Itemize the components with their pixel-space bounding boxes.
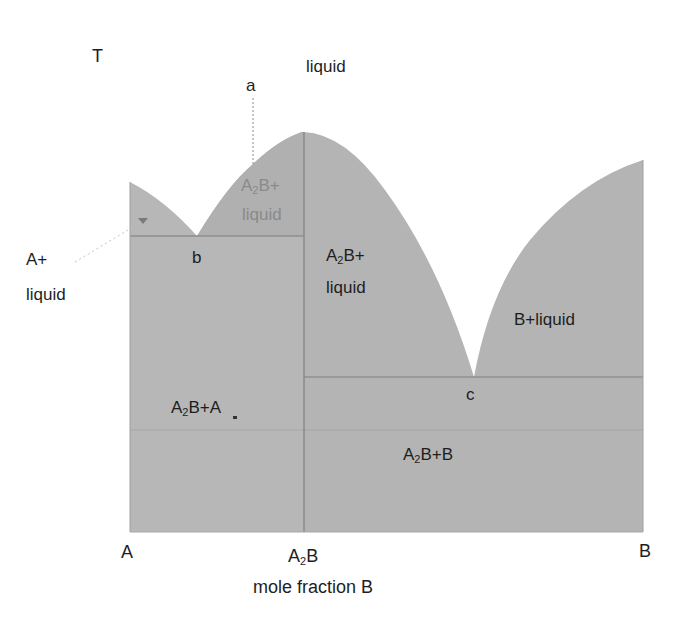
point-label-c: c	[466, 385, 475, 405]
region-label-a2b-liquid-left: A2B+	[241, 176, 280, 196]
region-label-liquid: liquid	[306, 57, 346, 77]
formula-base: A	[403, 445, 414, 464]
marker-dot-icon	[233, 416, 237, 419]
region-right-fill	[304, 132, 643, 532]
leader-line-a-liquid	[75, 224, 138, 262]
region-label-a2b-liquid-left-line2: liquid	[242, 205, 282, 225]
region-label-a-plus-liquid-line2: liquid	[26, 285, 66, 305]
phase-diagram-canvas	[0, 0, 683, 628]
formula-tail: B+	[343, 246, 364, 265]
region-label-a2b-liquid-right-line2: liquid	[326, 278, 366, 298]
region-label-a2b-liquid-right: A2B+	[326, 246, 365, 266]
formula-tail: B	[306, 546, 318, 566]
y-axis-label: T	[92, 46, 103, 66]
formula-tail: B+B	[420, 445, 453, 464]
formula-tail: B+A	[188, 398, 221, 417]
region-label-a2b-plus-b: A2B+B	[403, 445, 453, 465]
formula-base: A	[326, 246, 337, 265]
formula-base: A	[241, 176, 252, 195]
formula-base: A	[288, 546, 300, 566]
x-axis-label: mole fraction B	[253, 577, 373, 597]
x-tick-label-a2b: A2B	[288, 546, 318, 566]
formula-tail: B+	[258, 176, 279, 195]
x-tick-label-b: B	[639, 541, 651, 561]
region-label-a-plus-liquid-line1: A+	[26, 250, 47, 270]
region-label-b-plus-liquid: B+liquid	[514, 310, 575, 330]
phase-diagram: T liquid a b c A+ liquid A2B+ liquid A2B…	[0, 0, 683, 628]
region-label-a2b-plus-a: A2B+A	[171, 398, 221, 418]
point-label-b: b	[192, 248, 201, 268]
point-label-a: a	[246, 76, 255, 96]
formula-base: A	[171, 398, 182, 417]
x-tick-label-a: A	[121, 542, 133, 562]
